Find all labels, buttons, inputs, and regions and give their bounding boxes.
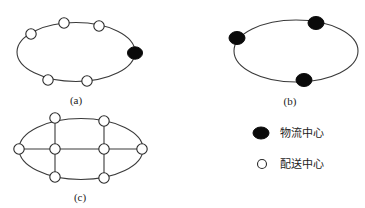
caption-c: (c)	[74, 191, 87, 204]
distribution-center-node	[137, 144, 147, 154]
network-topology-figure: (a) (b) (c) 物流中心 配送中心	[0, 0, 365, 208]
logistics-center-node	[229, 32, 245, 45]
distribution-center-node	[14, 144, 24, 154]
distribution-center-node	[50, 144, 60, 154]
distribution-center-node	[50, 172, 60, 182]
legend-item-distribution: 配送中心	[258, 157, 325, 171]
legend-label-distribution: 配送中心	[280, 157, 324, 171]
panel-a: (a)	[17, 18, 143, 107]
distribution-center-node	[43, 75, 53, 85]
distribution-center-node	[26, 29, 36, 39]
distribution-center-node	[94, 21, 104, 31]
ring-b	[234, 20, 358, 82]
legend-label-logistics: 物流中心	[280, 126, 324, 140]
caption-a: (a)	[70, 94, 83, 107]
logistics-center-node	[128, 47, 143, 59]
panel-c: (c)	[14, 113, 147, 204]
hollow-white-circle-icon	[258, 160, 267, 169]
filled-black-ellipse-icon	[253, 127, 269, 139]
distribution-center-node	[59, 18, 69, 28]
logistics-center-node	[308, 17, 324, 30]
logistics-center-node	[296, 74, 312, 87]
caption-b: (b)	[284, 95, 297, 108]
distribution-center-node	[99, 144, 109, 154]
panel-b: (b)	[229, 17, 358, 109]
distribution-center-node	[82, 76, 92, 86]
legend-item-logistics: 物流中心	[253, 126, 324, 140]
distribution-center-node	[50, 113, 60, 123]
distribution-center-node	[99, 116, 109, 126]
distribution-center-node	[99, 173, 109, 183]
legend: 物流中心 配送中心	[253, 126, 324, 171]
